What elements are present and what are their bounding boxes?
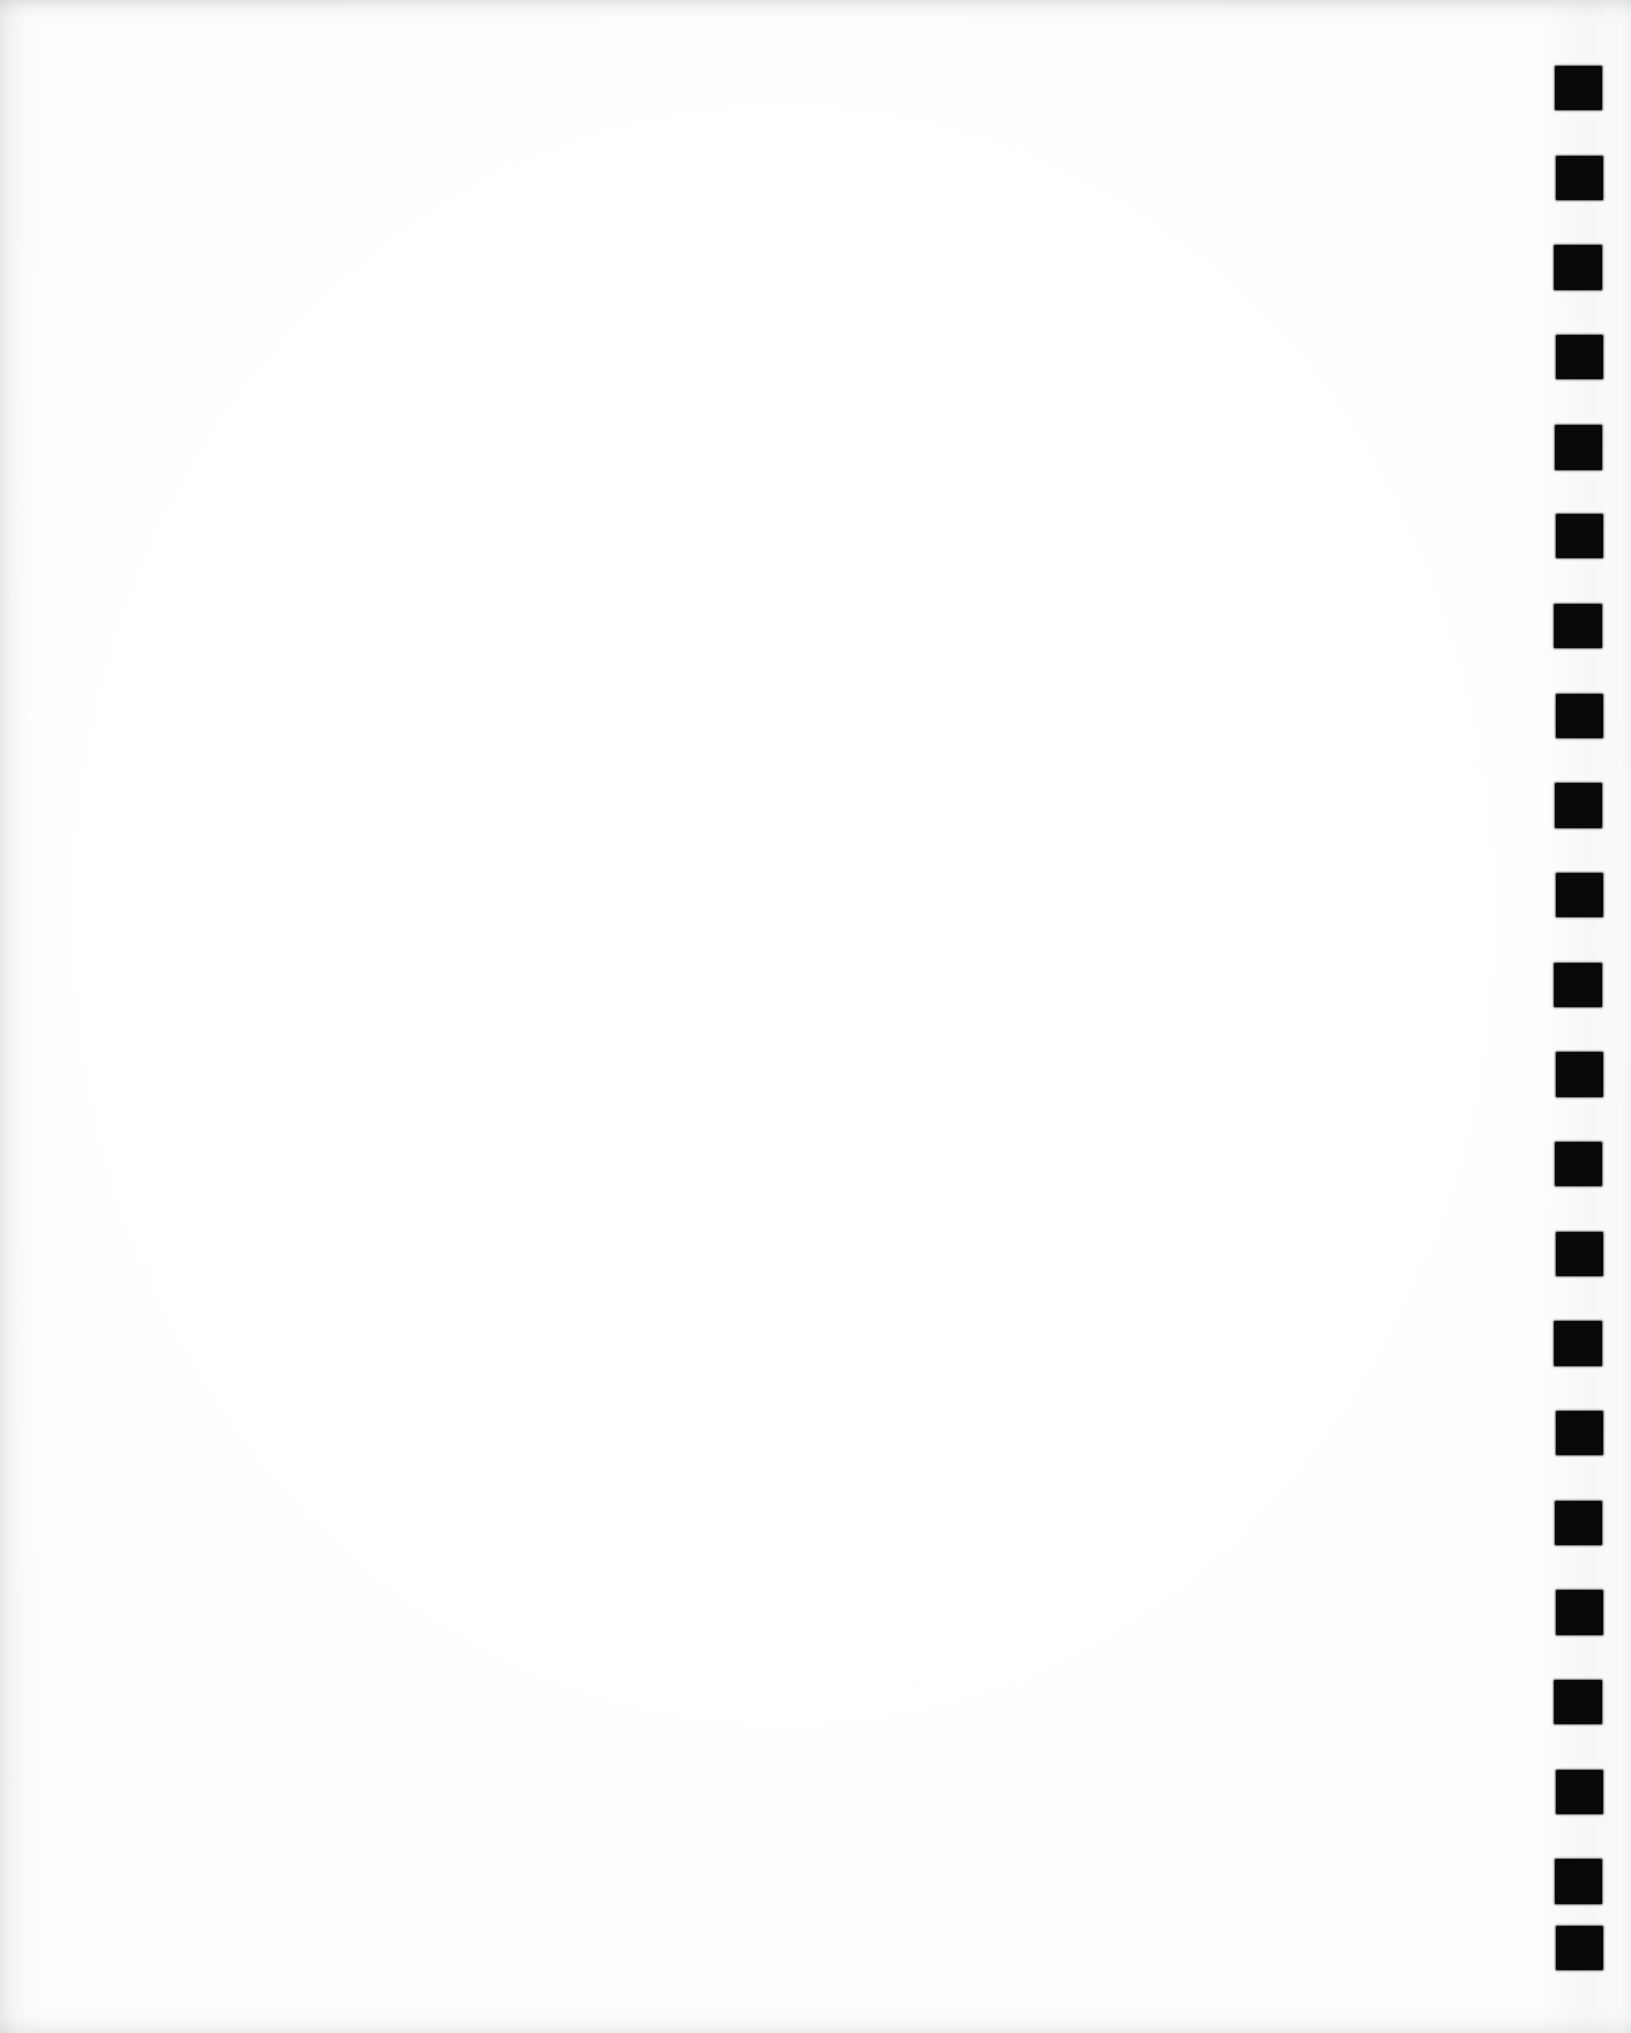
- registration-mark: [1556, 873, 1603, 917]
- registration-mark: [1554, 604, 1602, 648]
- registration-mark: [1554, 963, 1602, 1007]
- registration-mark: [1555, 425, 1602, 470]
- paper-surface: [0, 0, 1631, 2033]
- registration-mark: [1554, 245, 1602, 290]
- registration-mark: [1556, 1411, 1603, 1455]
- registration-mark: [1556, 156, 1603, 200]
- registration-mark: [1555, 783, 1602, 828]
- registration-mark: [1556, 1232, 1603, 1276]
- registration-mark: [1556, 335, 1603, 379]
- registration-mark: [1555, 1859, 1602, 1904]
- registration-mark: [1555, 1142, 1602, 1186]
- registration-mark: [1556, 694, 1603, 738]
- registration-mark: [1556, 514, 1603, 558]
- registration-mark: [1555, 66, 1602, 110]
- registration-mark: [1555, 1501, 1602, 1545]
- registration-mark: [1554, 1321, 1602, 1366]
- registration-mark: [1554, 1680, 1602, 1724]
- registration-mark: [1556, 1590, 1603, 1635]
- registration-mark: [1556, 1770, 1603, 1814]
- scanned-page: [0, 0, 1631, 2033]
- registration-mark: [1556, 1052, 1603, 1097]
- registration-mark: [1556, 1926, 1603, 1970]
